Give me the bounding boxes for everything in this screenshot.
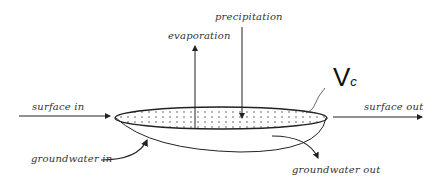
volume-label: Vc <box>333 62 357 93</box>
lake-surface <box>115 107 327 129</box>
water-balance-diagram: evaporation precipitation surface in sur… <box>0 0 440 186</box>
surface-in-label: surface in <box>32 101 84 112</box>
groundwater-in-label: groundwater in <box>31 153 112 164</box>
groundwater-out-label: groundwater out <box>292 164 380 175</box>
volume-leader-line <box>306 88 325 113</box>
groundwater-out-arrow <box>272 136 318 158</box>
surface-out-label: surface out <box>364 101 423 112</box>
evaporation-label: evaporation <box>168 30 231 41</box>
precipitation-label: precipitation <box>215 11 283 22</box>
